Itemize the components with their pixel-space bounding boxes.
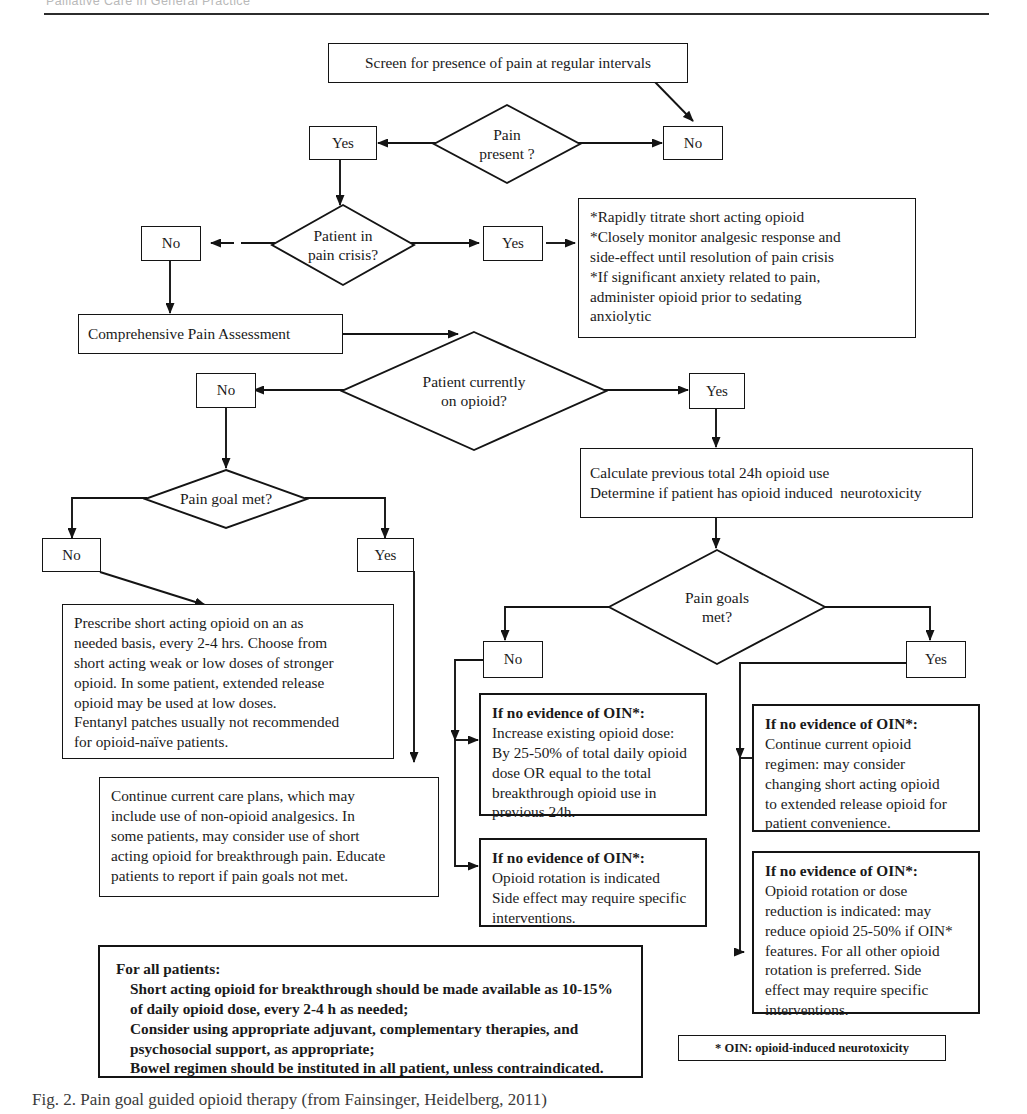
node-calculate-24h: Calculate previous total 24h opioid use … xyxy=(580,448,973,518)
label-on-opioid-yes: Yes xyxy=(689,373,745,409)
node-oin-continue-regimen-text: Continue current opioid regimen: may con… xyxy=(765,734,967,833)
label-pain-present-yes-text: Yes xyxy=(332,135,354,152)
decision-on-opioid-text: Patient currently on opioid? xyxy=(423,372,526,410)
node-oin-rotation-or-reduction-heading: If no evidence of OIN*: xyxy=(765,861,967,881)
node-oin-increase-dose-heading: If no evidence of OIN*: xyxy=(492,703,694,723)
decision-pain-goal-met: Pain goal met? xyxy=(143,468,309,530)
flowchart-page: Palliative Care in General Practice xyxy=(0,0,1027,1114)
decision-pain-crisis-text: Patient in pain crisis? xyxy=(308,226,378,264)
decision-pain-crisis: Patient in pain crisis? xyxy=(270,203,416,287)
node-comprehensive-assessment-text: Comprehensive Pain Assessment xyxy=(79,321,299,347)
running-head: Palliative Care in General Practice xyxy=(46,0,250,8)
decision-pain-goals-met-text: Pain goals met? xyxy=(685,588,749,626)
for-all-patients-heading-text: For all patients: xyxy=(116,960,220,977)
node-screen-for-pain-text: Screen for presence of pain at regular i… xyxy=(356,50,660,76)
label-pain-present-no-text: No xyxy=(684,135,702,152)
label-on-opioid-yes-text: Yes xyxy=(706,383,728,400)
node-oin-rotation-indicated-heading: If no evidence of OIN*: xyxy=(492,848,694,868)
decision-pain-present: Pain present ? xyxy=(432,103,582,185)
label-pain-present-no: No xyxy=(663,126,723,160)
node-continue-care-plans-text: Continue current care plans, which may i… xyxy=(111,786,427,885)
label-pain-crisis-yes: Yes xyxy=(483,226,543,261)
node-oin-rotation-or-reduction-text: Opioid rotation or dose reduction is ind… xyxy=(765,881,967,1020)
label-pain-goals-no-text: No xyxy=(504,651,522,668)
node-oin-increase-dose-text: Increase existing opioid dose: By 25-50%… xyxy=(492,723,694,822)
node-for-all-patients: For all patients: Short acting opioid fo… xyxy=(98,945,643,1078)
label-pain-goal-no-text: No xyxy=(62,547,80,564)
oin-heading-4: If no evidence of OIN*: xyxy=(765,862,918,879)
label-pain-goals-no: No xyxy=(483,641,543,678)
node-oin-increase-dose: If no evidence of OIN*: Increase existin… xyxy=(479,693,707,816)
oin-heading-3: If no evidence of OIN*: xyxy=(765,715,918,732)
oin-heading-2: If no evidence of OIN*: xyxy=(492,849,645,866)
node-oin-rotation-indicated: If no evidence of OIN*: Opioid rotation … xyxy=(479,838,707,927)
node-crisis-actions: *Rapidly titrate short acting opioid *Cl… xyxy=(578,198,916,338)
node-comprehensive-assessment: Comprehensive Pain Assessment xyxy=(78,314,343,354)
label-pain-goals-yes: Yes xyxy=(906,641,966,678)
label-on-opioid-no: No xyxy=(196,373,256,408)
label-pain-present-yes: Yes xyxy=(309,126,377,160)
label-pain-goal-no: No xyxy=(42,538,101,572)
node-oin-rotation-or-reduction: If no evidence of OIN*: Opioid rotation … xyxy=(752,851,980,1014)
decision-pain-present-text: Pain present ? xyxy=(479,125,535,163)
legend-oin-text: * OIN: opioid-induced neurotoxicity xyxy=(715,1041,909,1056)
node-prescribe-short-acting: Prescribe short acting opioid on an as n… xyxy=(62,604,394,759)
label-pain-goal-yes-text: Yes xyxy=(375,547,397,564)
legend-oin: * OIN: opioid-induced neurotoxicity xyxy=(678,1035,946,1061)
figure-caption: Fig. 2. Pain goal guided opioid therapy … xyxy=(32,1090,547,1110)
label-pain-goals-yes-text: Yes xyxy=(925,651,947,668)
node-oin-continue-regimen: If no evidence of OIN*: Continue current… xyxy=(752,704,980,832)
node-crisis-actions-text: *Rapidly titrate short acting opioid *Cl… xyxy=(590,207,904,326)
oin-heading-1: If no evidence of OIN*: xyxy=(492,704,645,721)
node-oin-rotation-indicated-text: Opioid rotation is indicated Side effect… xyxy=(492,868,694,928)
label-pain-crisis-no-text: No xyxy=(162,235,180,252)
label-on-opioid-no-text: No xyxy=(217,382,235,399)
decision-pain-goal-met-text: Pain goal met? xyxy=(180,489,272,508)
node-oin-continue-regimen-heading: If no evidence of OIN*: xyxy=(765,714,967,734)
node-calculate-24h-text: Calculate previous total 24h opioid use … xyxy=(581,460,931,506)
decision-pain-goals-met: Pain goals met? xyxy=(607,548,827,666)
node-for-all-patients-body: Short acting opioid for breakthrough sho… xyxy=(116,979,625,1078)
label-pain-crisis-yes-text: Yes xyxy=(502,235,524,252)
decision-on-opioid: Patient currently on opioid? xyxy=(340,330,608,452)
node-prescribe-short-acting-text: Prescribe short acting opioid on an as n… xyxy=(74,613,382,752)
label-pain-crisis-no: No xyxy=(141,226,201,261)
node-continue-care-plans: Continue current care plans, which may i… xyxy=(99,777,439,897)
node-for-all-patients-heading: For all patients: xyxy=(116,959,625,979)
node-screen-for-pain: Screen for presence of pain at regular i… xyxy=(328,43,688,83)
label-pain-goal-yes: Yes xyxy=(357,538,414,572)
header-rule xyxy=(44,13,989,15)
